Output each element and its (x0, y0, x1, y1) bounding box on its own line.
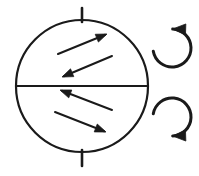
flow-arrow-lower-1 (60, 90, 112, 110)
flow-arrow-upper-1 (58, 34, 107, 54)
flow-arrow-upper-2-head (62, 69, 74, 77)
rotation-arrow-upper (153, 24, 191, 67)
flow-arrow-lower-2-head (94, 124, 106, 132)
flow-arrow-upper-2 (62, 56, 112, 77)
flow-arrow-lower-2 (55, 112, 106, 132)
rotation-arrow-lower (153, 98, 191, 141)
flow-arrow-lower-1-head (60, 90, 72, 98)
rotation-arrow-lower-head (173, 130, 186, 141)
rotation-arrow-group (153, 24, 191, 141)
figure-canvas (0, 0, 199, 176)
rotation-arrow-upper-head (173, 24, 186, 35)
flow-arrow-group (55, 34, 112, 132)
flow-arrow-upper-1-head (95, 34, 107, 42)
sphere-flow-diagram (0, 0, 199, 176)
